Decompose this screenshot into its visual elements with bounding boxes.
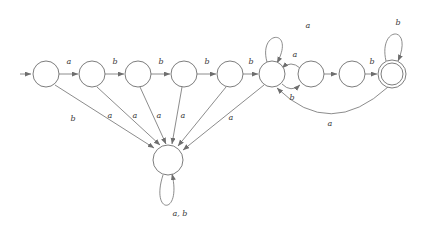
edge-q7-q6 [282,64,300,68]
label-q8-q9: b [369,57,374,66]
state-q2[interactable] [79,61,105,87]
state-q6[interactable] [259,61,285,87]
state-q3[interactable] [125,61,151,87]
state-q8[interactable] [339,61,365,87]
self-loop-dead [160,174,174,205]
label-q6-dead: a [229,113,234,122]
label-q4-dead: a [157,111,162,120]
state-q4[interactable] [171,61,197,87]
automaton-diagram: a b b b b b b a a a a a a b a a b a, b [0,0,429,228]
state-q7[interactable] [298,61,324,87]
label-q1-dead: b [70,114,75,123]
label-q2-q3: b [112,57,117,66]
state-q9-accepting-inner [381,63,403,85]
state-dead[interactable] [153,145,183,175]
label-q9-q7: a [328,119,333,128]
label-q7-q6: a [293,50,298,59]
self-loop-q7 [266,37,283,63]
state-q5[interactable] [217,61,243,87]
label-self-loop-q9: b [395,18,400,27]
edge-q6-q7 [282,84,300,89]
edge-q6-dead [183,85,264,150]
state-q1[interactable] [33,61,59,87]
label-q2-dead: a [108,111,113,120]
label-q3-q4: b [158,57,163,66]
label-q4-q5: b [204,57,209,66]
label-q3-dead: a [133,111,138,120]
edge-q3-dead [140,87,166,144]
label-q6-q7: b [289,93,294,102]
label-q5-q6: b [248,57,253,66]
label-q1-q2: a [67,57,72,66]
label-self-loop-dead: a, b [173,209,188,218]
diagram-canvas: a b b b b b b a a a a a a b a a b a, b [0,0,429,228]
edge-q2-dead [97,87,160,145]
label-q5-dead: a [181,111,186,120]
self-loop-q9 [385,34,402,61]
label-self-loop-q7: a [306,21,311,30]
